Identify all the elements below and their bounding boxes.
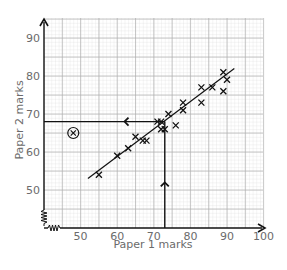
y-tick-label: 50 bbox=[26, 184, 40, 197]
x-tick-label: 50 bbox=[74, 230, 88, 243]
grid bbox=[44, 18, 264, 228]
y-tick-label: 60 bbox=[26, 146, 40, 159]
y-tick-label: 90 bbox=[26, 32, 40, 45]
y-tick-label: 70 bbox=[26, 108, 40, 121]
y-axis-label: Paper 2 marks bbox=[13, 80, 26, 159]
x-tick-label: 100 bbox=[253, 230, 274, 243]
y-tick-labels: 5060708090 bbox=[26, 32, 40, 197]
x-tick-label: 90 bbox=[220, 230, 234, 243]
scatter-chart: 5060708090100 5060708090 Paper 1 marks P… bbox=[0, 0, 287, 270]
x-axis-label: Paper 1 marks bbox=[113, 238, 192, 251]
y-tick-label: 80 bbox=[26, 70, 40, 83]
